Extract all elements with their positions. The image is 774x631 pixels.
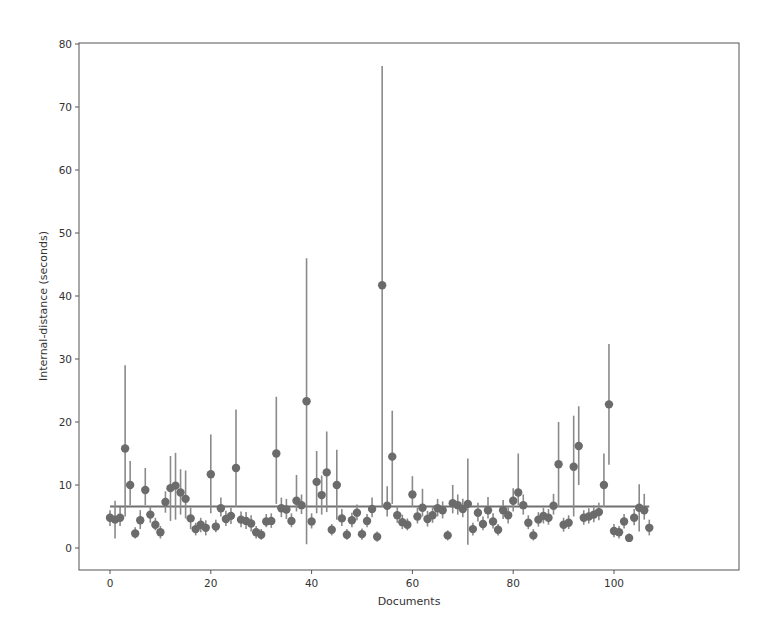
data-point <box>620 514 628 528</box>
data-point <box>343 529 351 540</box>
data-point <box>363 514 371 527</box>
marker <box>358 530 366 538</box>
marker <box>343 531 351 539</box>
marker <box>549 502 557 510</box>
marker <box>317 491 325 499</box>
y-tick-label: 80 <box>59 38 72 50</box>
data-point <box>171 453 179 520</box>
marker <box>247 519 255 527</box>
data-point <box>373 532 381 542</box>
marker <box>202 524 210 532</box>
marker <box>575 442 583 450</box>
marker <box>272 449 280 457</box>
marker <box>514 488 522 496</box>
marker <box>353 509 361 517</box>
data-point <box>312 451 320 513</box>
data-point <box>121 365 129 516</box>
x-tick-label: 80 <box>507 577 520 589</box>
data-point <box>529 529 537 540</box>
y-tick-label: 70 <box>59 101 72 113</box>
marker <box>438 506 446 514</box>
data-point <box>554 422 562 507</box>
marker <box>625 534 633 542</box>
data-point <box>272 397 280 504</box>
data-point <box>438 501 446 518</box>
marker <box>403 520 411 528</box>
marker <box>378 281 386 289</box>
data-point <box>494 524 502 535</box>
marker <box>186 514 194 522</box>
data-point <box>338 509 346 526</box>
marker <box>479 520 487 528</box>
marker <box>605 400 613 408</box>
marker <box>464 500 472 508</box>
marker <box>368 505 376 513</box>
data-point <box>368 498 376 518</box>
marker <box>312 478 320 486</box>
data-point <box>605 344 613 465</box>
data-point <box>519 494 527 514</box>
data-point <box>287 513 295 527</box>
data-point <box>358 528 366 539</box>
marker <box>630 514 638 522</box>
marker <box>232 464 240 472</box>
marker <box>338 514 346 522</box>
data-point <box>383 486 391 516</box>
x-tick-label: 40 <box>305 577 318 589</box>
marker <box>328 526 336 534</box>
marker <box>645 524 653 532</box>
data-point <box>141 468 149 505</box>
data-point <box>328 524 336 535</box>
data-point <box>408 476 416 507</box>
marker <box>136 516 144 524</box>
data-point <box>307 513 315 528</box>
marker <box>529 531 537 539</box>
marker <box>595 508 603 516</box>
y-tick-label: 40 <box>59 290 72 302</box>
marker <box>615 528 623 536</box>
marker <box>504 511 512 519</box>
marker <box>554 460 562 468</box>
marker <box>443 531 451 539</box>
marker <box>121 444 129 452</box>
data-point <box>569 416 577 517</box>
marker <box>297 501 305 509</box>
marker <box>227 512 235 520</box>
marker <box>171 481 179 489</box>
x-tick-label: 60 <box>406 577 419 589</box>
data-point <box>232 409 240 507</box>
data-point <box>131 527 139 538</box>
y-tick-label: 0 <box>65 542 72 554</box>
x-tick-label: 100 <box>604 577 624 589</box>
data-point <box>146 506 154 522</box>
marker <box>207 470 215 478</box>
data-point <box>176 469 184 514</box>
marker <box>302 397 310 405</box>
marker <box>519 501 527 509</box>
data-point <box>282 499 290 519</box>
marker <box>620 517 628 525</box>
data-point <box>645 520 653 536</box>
data-point <box>302 258 310 544</box>
marker <box>161 498 169 506</box>
marker <box>146 510 154 518</box>
marker <box>363 517 371 525</box>
marker <box>383 502 391 510</box>
marker <box>569 463 577 471</box>
marker <box>413 512 421 520</box>
data-point <box>136 510 144 529</box>
marker <box>333 481 341 489</box>
y-axis-label: Internal-distance (seconds) <box>37 231 50 381</box>
marker <box>373 532 381 540</box>
marker <box>544 514 552 522</box>
data-point <box>600 454 608 508</box>
errorbar-chart: 01020304050607080020406080100 Documents … <box>0 0 774 631</box>
data-point <box>267 513 275 527</box>
x-axis-label: Documents <box>378 595 441 608</box>
marker <box>287 517 295 525</box>
marker <box>393 511 401 519</box>
plot-area <box>106 66 654 545</box>
marker <box>217 504 225 512</box>
data-point <box>544 509 552 525</box>
y-tick-label: 30 <box>59 353 72 365</box>
